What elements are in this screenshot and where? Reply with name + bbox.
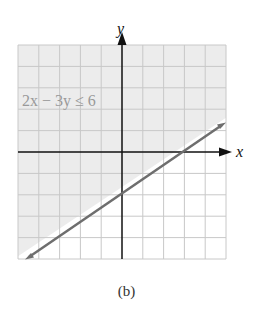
y-axis-label: y: [115, 20, 125, 38]
x-axis-label: x: [235, 143, 243, 160]
figure-caption: (b): [0, 283, 253, 300]
inequality-graph: x y 2x − 3y ≤ 6: [0, 0, 253, 280]
inequality-label: 2x − 3y ≤ 6: [22, 92, 96, 110]
